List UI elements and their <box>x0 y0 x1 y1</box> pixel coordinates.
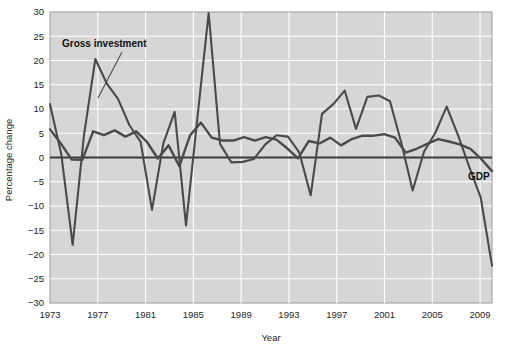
y-tick-label: −5 <box>33 176 44 187</box>
x-tick-label: 1989 <box>231 309 252 320</box>
y-tick-label: 15 <box>33 79 44 90</box>
y-tick-label: −30 <box>28 297 44 308</box>
y-tick-label: −15 <box>28 225 44 236</box>
y-tick-label: −20 <box>28 249 44 260</box>
x-tick-label: 1993 <box>278 309 299 320</box>
y-tick-label: 0 <box>39 152 44 163</box>
x-tick-label: 1977 <box>87 309 108 320</box>
x-axis-label: Year <box>261 332 280 343</box>
y-tick-label: −10 <box>28 200 44 211</box>
gdp-label: GDP <box>468 171 490 182</box>
y-tick-label: 30 <box>33 6 44 17</box>
y-tick-label: 20 <box>33 55 44 66</box>
y-tick-label: 5 <box>39 128 44 139</box>
x-tick-label: 2005 <box>422 309 443 320</box>
x-tick-label: 1985 <box>183 309 204 320</box>
x-tick-label: 2009 <box>469 309 490 320</box>
gross-investment-label: Gross investment <box>62 38 147 49</box>
line-chart: 302520151050−5−10−15−20−25−30 1973197719… <box>0 0 508 348</box>
chart-figure: 302520151050−5−10−15−20−25−30 1973197719… <box>0 0 508 348</box>
x-tick-label: 1981 <box>135 309 156 320</box>
y-tick-label: −25 <box>28 273 44 284</box>
y-axis-label: Percentage change <box>3 119 14 201</box>
y-tick-label: 10 <box>33 103 44 114</box>
y-tick-label: 25 <box>33 31 44 42</box>
x-tick-label: 1973 <box>39 309 60 320</box>
x-tick-label: 2001 <box>374 309 395 320</box>
x-tick-label: 1997 <box>326 309 347 320</box>
